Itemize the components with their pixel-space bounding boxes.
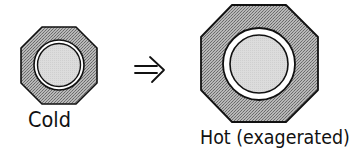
cold-core (38, 44, 81, 87)
arrow-icon (135, 57, 164, 82)
hot-label: Hot (exagerated) (200, 126, 350, 148)
hot-core (230, 35, 288, 93)
cold-label: Cold (28, 108, 71, 132)
cold-nut (21, 27, 97, 104)
hot-nut (201, 5, 318, 122)
